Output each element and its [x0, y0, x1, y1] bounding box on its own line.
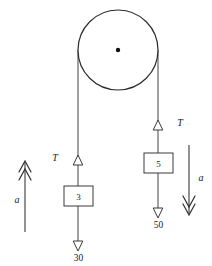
right-acceleration-label: a — [199, 172, 204, 183]
pulley-diagram: T 3 30 T 5 50 a a — [0, 0, 212, 266]
right-block-label: 5 — [156, 159, 161, 169]
left-tension-arrowhead-icon — [73, 155, 83, 165]
diagram-canvas: T 3 30 T 5 50 a a — [0, 0, 212, 266]
right-weight-label: 50 — [154, 220, 164, 230]
left-acceleration-label: a — [15, 194, 20, 205]
right-tension-label: T — [177, 117, 184, 128]
right-weight-arrowhead-icon — [153, 208, 163, 218]
left-weight-label: 30 — [74, 253, 84, 263]
pulley-axle-dot — [116, 48, 120, 52]
left-weight-arrowhead-icon — [73, 241, 83, 251]
right-tension-arrowhead-icon — [153, 120, 163, 130]
left-tension-label: T — [52, 152, 59, 163]
left-block-label: 3 — [76, 192, 81, 202]
